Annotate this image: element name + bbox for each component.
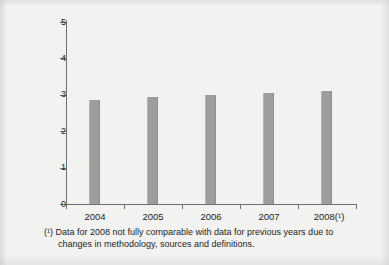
bar-2005 [147, 97, 158, 204]
x-tick-boundary-2 [182, 204, 183, 209]
y-tick-label-0-wrap: 0 [38, 200, 66, 209]
footnote-line-2: changes in methodology, sources and defi… [44, 239, 370, 251]
bar-chart: 0 1 2 3 4 5 [0, 0, 389, 265]
x-label-2007: 2007 [258, 211, 279, 222]
x-label-2005: 2005 [142, 211, 163, 222]
x-tick-boundary-3 [240, 204, 241, 209]
x-label-2004: 2004 [84, 211, 105, 222]
y-tick-label-3-wrap: 3 [38, 90, 66, 99]
y-tick-label-2: 2 [48, 127, 66, 136]
y-tick-label-4: 4 [48, 54, 66, 63]
bar-2008 [321, 91, 332, 204]
bar-2006 [205, 95, 216, 204]
y-tick-label-4-wrap: 4 [38, 54, 66, 63]
x-label-2008: 2008(¹) [314, 211, 345, 222]
x-label-2006: 2006 [200, 211, 221, 222]
chart-page: 0 1 2 3 4 5 [0, 0, 389, 265]
x-tick-boundary-4 [298, 204, 299, 209]
y-tick-label-5-wrap: 5 [38, 18, 66, 27]
y-tick-label-3: 3 [48, 90, 66, 99]
y-tick-label-2-wrap: 2 [38, 127, 66, 136]
y-tick-label-0: 0 [48, 200, 66, 209]
bar-2007 [263, 93, 274, 204]
x-axis-line [66, 204, 356, 205]
x-tick-boundary-0 [66, 204, 67, 209]
chart-footnote: (¹) Data for 2008 not fully comparable w… [44, 227, 370, 250]
x-tick-boundary-5 [356, 204, 357, 209]
y-tick-label-5: 5 [48, 18, 66, 27]
x-tick-boundary-1 [124, 204, 125, 209]
footnote-line-1: (¹) Data for 2008 not fully comparable w… [44, 227, 370, 239]
y-tick-label-1: 1 [48, 163, 66, 172]
y-axis-line [66, 20, 67, 205]
bar-2004 [89, 100, 100, 204]
y-tick-label-1-wrap: 1 [38, 163, 66, 172]
